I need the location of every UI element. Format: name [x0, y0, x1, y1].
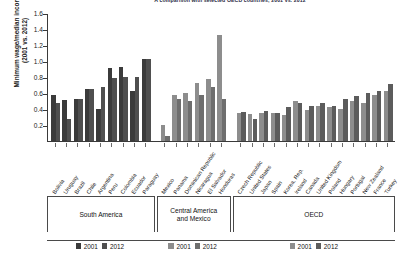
x-axis-line	[47, 141, 395, 142]
category-tick	[297, 143, 298, 147]
bar	[211, 87, 216, 141]
legend: 20012012	[233, 240, 395, 252]
category-tick	[187, 143, 188, 147]
bar	[332, 106, 337, 141]
group-box: South America	[47, 196, 155, 232]
bar	[188, 101, 193, 141]
category-tick	[286, 143, 287, 147]
category-tick	[221, 143, 222, 147]
bar	[165, 136, 170, 141]
group-label-boxes: South AmericaCentral Americaand MexicoOE…	[47, 196, 395, 232]
category-tick	[111, 143, 112, 147]
legend-label: 2012	[324, 243, 338, 250]
bar	[388, 84, 393, 141]
legend-label: 2012	[110, 243, 124, 250]
legend-swatch	[102, 243, 108, 249]
y-tick-label: 1.6	[19, 10, 43, 17]
y-tick	[43, 62, 47, 63]
bar	[286, 107, 291, 141]
bar	[199, 95, 204, 141]
category-tick	[134, 143, 135, 147]
legend-swatch	[195, 243, 201, 249]
legend-swatch	[316, 243, 322, 249]
bar	[309, 106, 314, 141]
category-label: Peru	[107, 182, 119, 195]
legend-swatch	[290, 243, 296, 249]
category-tick	[342, 143, 343, 147]
y-tick	[43, 14, 47, 15]
category-tick	[164, 143, 165, 147]
legend: 20012012	[157, 240, 229, 252]
chart-root: A comparison with selected OECD countrie…	[0, 0, 410, 260]
group-box: OECD	[233, 196, 395, 232]
legend-item: 2001	[290, 243, 312, 250]
bar	[264, 111, 269, 141]
category-tick	[376, 143, 377, 147]
bar	[135, 77, 140, 141]
legend-label: 2001	[298, 243, 312, 250]
group-title-line1: Central America	[170, 207, 217, 214]
group-title: South America	[79, 211, 122, 219]
y-tick-label: 0.6	[19, 90, 43, 97]
legend-label: 2012	[203, 243, 217, 250]
y-tick	[43, 78, 47, 79]
category-tick	[240, 143, 241, 147]
category-tick	[331, 143, 332, 147]
category-tick	[176, 143, 177, 147]
bar	[320, 103, 325, 141]
category-tick	[198, 143, 199, 147]
category-tick	[89, 143, 90, 147]
bar-series-container	[48, 14, 395, 141]
bar	[101, 87, 106, 141]
bar	[222, 99, 227, 141]
y-tick-label: 0.2	[19, 122, 43, 129]
legend-swatch	[76, 243, 82, 249]
category-tick	[145, 143, 146, 147]
category-tick	[210, 143, 211, 147]
legend-item: 2012	[316, 243, 338, 250]
y-tick	[43, 46, 47, 47]
y-tick	[43, 94, 47, 95]
bar	[253, 119, 258, 141]
category-tick	[252, 143, 253, 147]
chart-title: A comparison with selected OECD countrie…	[95, 0, 365, 5]
bar	[112, 78, 117, 141]
category-label: Chile	[85, 181, 97, 195]
legend-swatch	[168, 243, 174, 249]
y-tick-label: 1.2	[19, 42, 43, 49]
chart-legends: 200120122001201220012012	[47, 240, 395, 254]
bar	[377, 91, 382, 141]
category-tick	[274, 143, 275, 147]
legend-item: 2001	[168, 243, 190, 250]
category-tick	[55, 143, 56, 147]
bar	[146, 59, 151, 141]
bar	[89, 89, 94, 141]
group-title: OECD	[304, 211, 323, 219]
category-tick	[353, 143, 354, 147]
y-tick	[43, 110, 47, 111]
bar	[343, 99, 348, 141]
bar	[78, 99, 83, 141]
category-tick	[365, 143, 366, 147]
bar	[177, 99, 182, 141]
y-tick	[43, 30, 47, 31]
y-axis-label-line2: (2001 vs. 2012)	[21, 18, 28, 63]
bar	[354, 96, 359, 141]
category-tick	[66, 143, 67, 147]
category-tick	[77, 143, 78, 147]
group-title: Central Americaand Mexico	[170, 207, 217, 223]
legend-label: 2001	[176, 243, 190, 250]
legend-item: 2012	[195, 243, 217, 250]
bar	[56, 103, 61, 141]
legend-label: 2001	[84, 243, 98, 250]
legend-item: 2001	[76, 243, 98, 250]
category-axis-labels: BoliviaUruguayBrazilChileArgentinaPeruCo…	[47, 143, 397, 195]
category-tick	[263, 143, 264, 147]
y-tick-label: 1.4	[19, 26, 43, 33]
y-tick-label: 1.0	[19, 58, 43, 65]
y-tick	[43, 126, 47, 127]
category-tick	[319, 143, 320, 147]
bar	[241, 112, 246, 141]
bar	[366, 93, 371, 141]
bar	[298, 103, 303, 141]
